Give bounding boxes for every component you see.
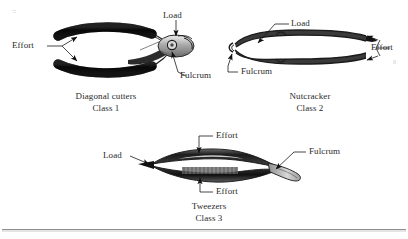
label-class3-fulcrum: Fulcrum [309, 147, 340, 156]
leader-class3-load [130, 156, 149, 164]
diagram-tweezers [130, 136, 306, 192]
label-class2-fulcrum: Fulcrum [241, 67, 272, 76]
caption-class3-tool: Tweezers [149, 201, 269, 212]
label-class3-effort-bottom: Effort [216, 187, 238, 196]
tweezers-knurl [182, 167, 238, 174]
caption-class2-tool: Nutcracker [250, 91, 370, 102]
caption-class1-tool: Diagonal cutters [46, 91, 166, 102]
caption-class3-class: Class 3 [149, 213, 269, 224]
label-class2-effort: Effort [371, 43, 393, 52]
diagram-nutcracker [228, 24, 390, 72]
leader-class2-fulcrum [228, 54, 238, 72]
label-class2-load: Load [291, 19, 310, 28]
label-class3-effort-top: Effort [216, 131, 238, 140]
caption-class1-class: Class 1 [46, 103, 166, 114]
label-class1-load: Load [163, 11, 182, 20]
leader-class1-effort [47, 37, 77, 61]
diagram-diagonal-cutters [47, 20, 194, 76]
lever-classes-figure: Effort Load Fulcrum Diagonal cutters Cla… [0, 0, 408, 239]
label-class1-effort: Effort [12, 41, 34, 50]
label-class1-fulcrum: Fulcrum [180, 71, 211, 80]
label-class3-load: Load [103, 151, 122, 160]
caption-class2-class: Class 2 [250, 103, 370, 114]
